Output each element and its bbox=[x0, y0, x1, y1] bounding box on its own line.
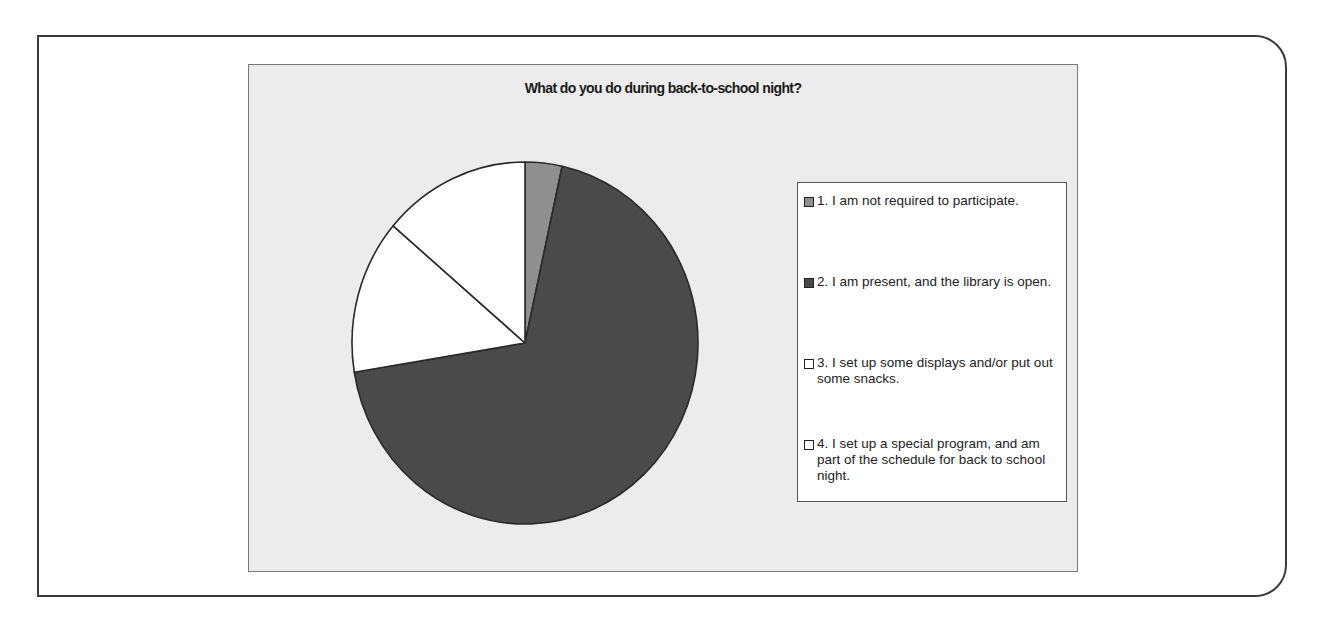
legend-item-2: 2. I am present, and the library is open… bbox=[804, 274, 1062, 290]
legend: 1. I am not required to participate. 2. … bbox=[797, 182, 1067, 502]
legend-item-1: 1. I am not required to participate. bbox=[804, 193, 1062, 209]
legend-swatch-4 bbox=[804, 440, 814, 450]
chart-area: What do you do during back-to-school nig… bbox=[248, 64, 1078, 572]
legend-label: 4. I set up a special program, and am pa… bbox=[817, 436, 1062, 484]
legend-label: 3. I set up some displays and/or put out… bbox=[817, 355, 1062, 387]
legend-swatch-3 bbox=[804, 359, 814, 369]
legend-item-4: 4. I set up a special program, and am pa… bbox=[804, 436, 1062, 484]
pie-slices bbox=[352, 162, 698, 524]
legend-label: 1. I am not required to participate. bbox=[817, 193, 1062, 209]
legend-swatch-1 bbox=[804, 197, 814, 207]
legend-label: 2. I am present, and the library is open… bbox=[817, 274, 1062, 290]
legend-item-3: 3. I set up some displays and/or put out… bbox=[804, 355, 1062, 387]
legend-swatch-2 bbox=[804, 278, 814, 288]
